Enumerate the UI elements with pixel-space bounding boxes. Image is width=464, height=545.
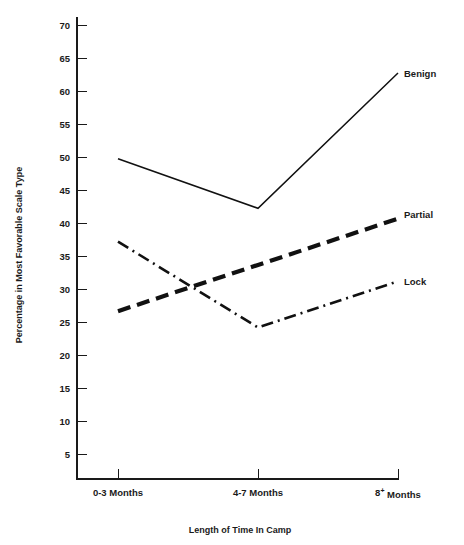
y-tick-label: 5 — [65, 449, 71, 460]
y-tick-label: 30 — [59, 284, 70, 295]
series-labels: Benign Partial Lock — [404, 68, 436, 287]
y-tick-label: 25 — [59, 317, 70, 328]
series-line-partial — [118, 219, 398, 312]
x-tick-label-second: 4-7 Months — [233, 487, 283, 498]
y-tick-label: 55 — [59, 119, 70, 130]
axis-lines — [77, 17, 399, 479]
x-tick-label-third: 8+ Months — [375, 487, 421, 501]
y-tick-label: 10 — [59, 416, 70, 427]
series-line-benign — [118, 73, 398, 208]
series-label-partial: Partial — [404, 209, 433, 220]
x-tick-labels: 0-3 Months 4-7 Months 8+ Months — [93, 487, 421, 501]
y-axis-title: Percentage in Most Favorable Scale Type — [14, 167, 24, 343]
y-tick-labels: 70 65 60 55 50 45 40 35 30 25 20 15 10 5 — [59, 20, 70, 460]
series-label-lock: Lock — [404, 276, 427, 287]
x-tick-third-rest: Months — [384, 489, 420, 500]
x-tick-marks — [119, 469, 399, 479]
y-tick-marks — [77, 26, 87, 455]
y-tick-label: 60 — [59, 86, 70, 97]
x-tick-label-first: 0-3 Months — [93, 487, 143, 498]
y-tick-label: 20 — [59, 350, 70, 361]
chart-canvas: 70 65 60 55 50 45 40 35 30 25 20 15 10 5… — [0, 0, 464, 545]
y-tick-label: 35 — [59, 251, 70, 262]
y-tick-label: 45 — [59, 185, 70, 196]
y-tick-label: 50 — [59, 152, 70, 163]
series-line-lock — [118, 242, 398, 328]
x-axis-title: Length of Time In Camp — [189, 525, 292, 535]
line-chart: 70 65 60 55 50 45 40 35 30 25 20 15 10 5… — [0, 0, 464, 545]
y-tick-label: 65 — [59, 53, 70, 64]
y-tick-label: 40 — [59, 218, 70, 229]
y-tick-label: 15 — [59, 383, 70, 394]
y-tick-label: 70 — [59, 20, 70, 31]
series-label-benign: Benign — [404, 68, 436, 79]
